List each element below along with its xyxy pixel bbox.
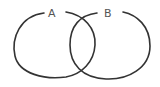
set-a-label: A: [48, 7, 56, 20]
venn-diagram: A B: [0, 0, 160, 87]
set-b-circle: [70, 12, 150, 79]
set-b-label: B: [104, 7, 112, 20]
set-a-circle: [14, 12, 95, 78]
